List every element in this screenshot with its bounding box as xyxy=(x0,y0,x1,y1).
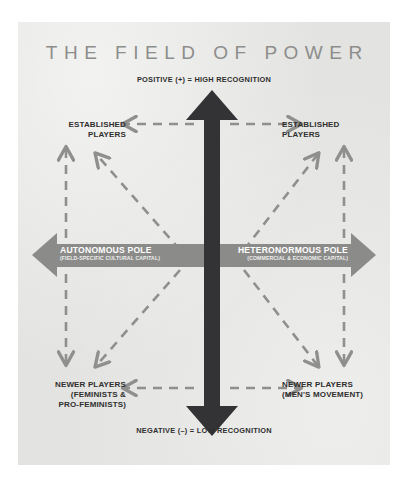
heteronomous-pole-sub: (COMMERCIAL & ECONOMIC CAPITAL) xyxy=(238,256,348,261)
corner-label-top-right: ESTABLISHED PLAYERS xyxy=(282,120,374,140)
positive-axis-arrowhead xyxy=(186,90,238,120)
page-title: THE FIELD OF POWER xyxy=(18,42,390,64)
corner-label-bottom-right-name: NEWER PLAYERS xyxy=(282,380,380,390)
corner-label-bottom-right-sub: (MEN'S MOVEMENT) xyxy=(282,390,380,400)
corner-label-bottom-left-sub2: PRO-FEMINISTS) xyxy=(28,400,126,410)
corner-label-top-left-name: ESTABLISHED xyxy=(34,120,126,130)
autonomous-pole-label: AUTONOMOUS POLE (FIELD-SPECIFIC CULTURAL… xyxy=(60,246,160,261)
corner-label-bottom-right: NEWER PLAYERS (MEN'S MOVEMENT) xyxy=(282,380,380,400)
corner-label-bottom-left-name: NEWER PLAYERS xyxy=(28,380,126,390)
vertical-axis-bar xyxy=(204,119,220,409)
corner-label-top-left-sub: PLAYERS xyxy=(34,130,126,140)
corner-label-bottom-left: NEWER PLAYERS (FEMINISTS & PRO-FEMINISTS… xyxy=(28,380,126,410)
autonomous-pole-name: AUTONOMOUS POLE xyxy=(60,246,160,255)
autonomous-pole-sub: (FIELD-SPECIFIC CULTURAL CAPITAL) xyxy=(60,256,160,261)
field-of-power-panel: THE FIELD OF POWER POSITIVE (+) = HIGH R… xyxy=(18,22,390,465)
heteronomous-pole-name: HETERONORMOUS POLE xyxy=(238,246,348,255)
heteronomous-pole-label: HETERONORMOUS POLE (COMMERCIAL & ECONOMI… xyxy=(238,246,348,261)
corner-label-top-left: ESTABLISHED PLAYERS xyxy=(34,120,126,140)
corner-label-top-right-sub: PLAYERS xyxy=(282,130,374,140)
negative-axis-caption: NEGATIVE (–) = LOW RECOGNITION xyxy=(18,426,390,435)
heteronomous-pole-arrowhead xyxy=(351,233,376,277)
autonomous-pole-arrowhead xyxy=(32,233,57,277)
positive-axis-caption: POSITIVE (+) = HIGH RECOGNITION xyxy=(18,75,390,84)
corner-label-top-right-name: ESTABLISHED xyxy=(282,120,374,130)
corner-label-bottom-left-sub: (FEMINISTS & xyxy=(28,390,126,400)
